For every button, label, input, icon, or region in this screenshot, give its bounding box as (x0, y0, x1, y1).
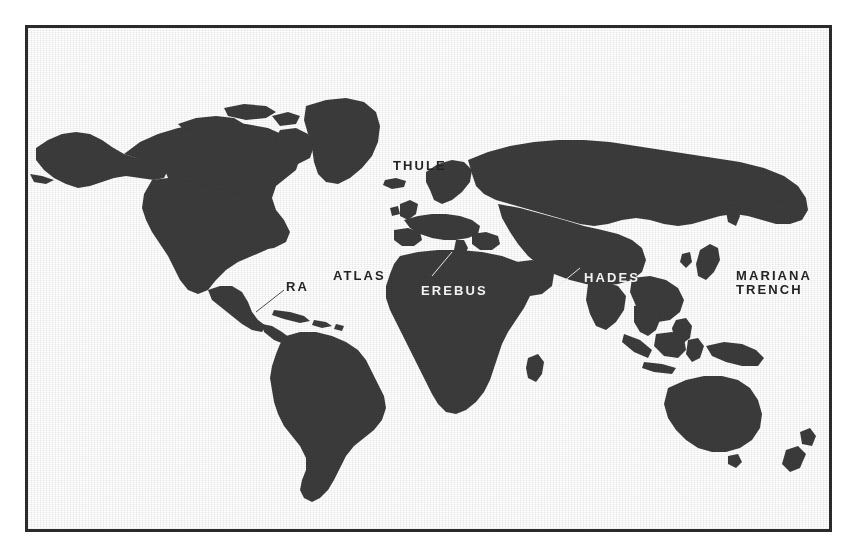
landmass-korea (680, 252, 692, 268)
landmass-madagascar (526, 354, 544, 382)
landmass-new-zealand-south (782, 446, 806, 472)
landmass-cuba (272, 310, 310, 323)
map-plate-frame: THULE ATLAS EREBUS RA HADES MARIANA TREN… (25, 25, 832, 532)
landmass-sulawesi (686, 338, 704, 362)
landmass-lesser-antilles (334, 324, 344, 331)
map-label-hades[interactable]: HADES (584, 271, 640, 285)
landmass-africa (386, 250, 532, 414)
landmass-india (586, 282, 626, 330)
landmass-aleutians (30, 174, 54, 184)
landmass-ireland (390, 206, 400, 216)
map-label-mariana-trench[interactable]: MARIANA TRENCH (736, 269, 812, 296)
landmass-greenland (304, 98, 380, 184)
landmass-balkans (472, 232, 500, 250)
map-canvas[interactable]: THULE ATLAS EREBUS RA HADES MARIANA TREN… (28, 28, 829, 529)
screenshot-root: THULE ATLAS EREBUS RA HADES MARIANA TREN… (0, 0, 858, 555)
landmass-australia (664, 376, 762, 452)
landmass-arctic-islands-3 (272, 112, 300, 126)
map-label-erebus[interactable]: EREBUS (421, 284, 488, 298)
map-label-thule[interactable]: THULE (393, 159, 447, 173)
map-label-ra[interactable]: RA (286, 280, 309, 294)
map-label-atlas[interactable]: ATLAS (333, 269, 386, 283)
landmass-hispaniola (312, 320, 332, 328)
landmass-arctic-islands-2 (224, 104, 276, 120)
landmass-south-america (270, 332, 386, 502)
landmass-java (642, 362, 676, 374)
world-landmasses (28, 28, 829, 529)
landmass-sumatra (622, 334, 652, 358)
landmass-japan (696, 244, 720, 280)
landmass-new-zealand-north (800, 428, 816, 446)
landmass-new-guinea (706, 342, 764, 366)
landmass-iceland (383, 178, 406, 189)
landmass-mexico (208, 286, 266, 332)
landmass-tasmania (728, 454, 742, 468)
